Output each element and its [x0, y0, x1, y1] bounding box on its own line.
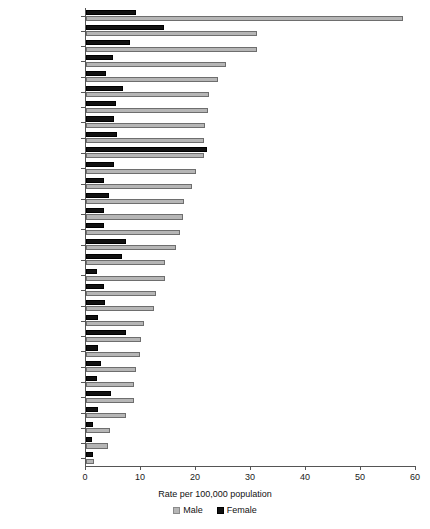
bar-female — [86, 239, 126, 244]
bar-female — [86, 269, 97, 274]
bar-row: Spain '98 — [85, 451, 415, 466]
x-tick-label: 40 — [300, 472, 310, 482]
bar-row: Germany '99 — [85, 283, 415, 298]
bar-male — [86, 92, 209, 97]
legend-label-female: Female — [227, 505, 257, 515]
bar-female — [86, 55, 113, 60]
bar-row: Israel '99 — [85, 344, 415, 359]
bar-male — [86, 123, 205, 128]
bar-row: Poland '00 — [85, 176, 415, 191]
chart-legend: Male Female — [0, 505, 430, 515]
y-tick-mark — [81, 138, 85, 139]
bar-row: Slovakia '00 — [85, 268, 415, 283]
bar-row: Japan '99 — [85, 237, 415, 252]
bar-row: Sweden '99 — [85, 252, 415, 267]
y-tick-mark — [81, 16, 85, 17]
legend-label-male: Male — [183, 505, 203, 515]
bar-row: USA '99 — [85, 222, 415, 237]
x-axis-title: Rate per 100,000 population — [0, 489, 430, 499]
x-tick-label: 0 — [82, 472, 87, 482]
suicide-rate-bar-chart: 0102030405060 Russia '00New Zealand '99F… — [0, 0, 430, 529]
bar-male — [86, 214, 183, 219]
legend-swatch-female-icon — [217, 507, 224, 514]
bar-male — [86, 367, 136, 372]
bar-male — [86, 169, 196, 174]
bar-row: Netherlands '99 — [85, 390, 415, 405]
bar-row: Portugal '00 — [85, 435, 415, 450]
y-tick-mark — [81, 382, 85, 383]
bar-row: Belgium '96 — [85, 145, 415, 160]
bar-male — [86, 230, 180, 235]
bar-row: Hungary '00 — [85, 191, 415, 206]
y-tick-mark — [81, 153, 85, 154]
bar-female — [86, 407, 98, 412]
y-tick-mark — [81, 413, 85, 414]
bar-row: Italy '99 — [85, 405, 415, 420]
x-tick-mark — [360, 466, 361, 470]
y-tick-mark — [81, 61, 85, 62]
y-tick-mark — [81, 168, 85, 169]
bar-male — [86, 459, 94, 464]
bar-row: Korea '00 — [85, 329, 415, 344]
bar-female — [86, 437, 92, 442]
bar-row: Australia '99 — [85, 100, 415, 115]
bar-row: England & Wales '99 — [85, 359, 415, 374]
bar-male — [86, 413, 126, 418]
bar-female — [86, 71, 106, 76]
bar-female — [86, 147, 207, 152]
bar-row: Denmark '98 — [85, 313, 415, 328]
y-tick-mark — [81, 321, 85, 322]
bar-male — [86, 352, 140, 357]
bar-male — [86, 62, 226, 67]
y-tick-mark — [81, 275, 85, 276]
bar-female — [86, 116, 114, 121]
legend-item-female: Female — [217, 505, 257, 515]
bar-male — [86, 184, 192, 189]
bar-row: Finland '00 — [85, 39, 415, 54]
y-tick-mark — [81, 46, 85, 47]
bar-male — [86, 428, 110, 433]
bar-male — [86, 108, 208, 113]
y-tick-mark — [81, 184, 85, 185]
bar-female — [86, 101, 116, 106]
bar-row: Scotland '99 — [85, 69, 415, 84]
x-tick-label: 10 — [135, 472, 145, 482]
y-tick-mark — [81, 199, 85, 200]
y-tick-mark — [81, 77, 85, 78]
bar-male — [86, 321, 144, 326]
bar-female — [86, 284, 104, 289]
bar-female — [86, 376, 97, 381]
bar-female — [86, 40, 130, 45]
bar-row: Russia '00 — [85, 8, 415, 23]
bar-female — [86, 452, 93, 457]
x-tick-label: 60 — [410, 472, 420, 482]
bar-female — [86, 10, 136, 15]
bar-female — [86, 178, 104, 183]
bar-male — [86, 382, 134, 387]
bar-female — [86, 422, 93, 427]
y-tick-mark — [81, 290, 85, 291]
y-tick-mark — [81, 351, 85, 352]
bar-male — [86, 31, 257, 36]
legend-item-male: Male — [173, 505, 203, 515]
x-tick-mark — [195, 466, 196, 470]
y-tick-mark — [81, 367, 85, 368]
y-tick-mark — [81, 229, 85, 230]
bar-female — [86, 162, 114, 167]
bar-female — [86, 193, 109, 198]
bar-female — [86, 391, 111, 396]
x-tick-mark — [415, 466, 416, 470]
x-tick-mark — [250, 466, 251, 470]
bar-female — [86, 223, 104, 228]
bar-female — [86, 300, 105, 305]
bar-row: Austria '00 — [85, 130, 415, 145]
y-tick-mark — [81, 260, 85, 261]
y-tick-mark — [81, 306, 85, 307]
x-tick-label: 30 — [245, 472, 255, 482]
y-tick-mark — [81, 443, 85, 444]
bar-row: Northern Ireland '99 — [85, 84, 415, 99]
y-tick-mark — [81, 31, 85, 32]
bar-female — [86, 330, 126, 335]
y-tick-mark — [81, 107, 85, 108]
bar-male — [86, 337, 141, 342]
